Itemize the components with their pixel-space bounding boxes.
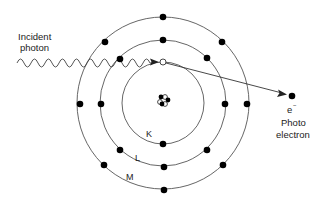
shell-label-l: L — [135, 153, 140, 163]
electron — [160, 141, 167, 148]
electron — [117, 147, 124, 154]
photoelectron — [289, 93, 296, 100]
electron — [160, 37, 167, 44]
electron — [102, 39, 109, 46]
electron — [222, 101, 229, 108]
electron — [98, 101, 105, 108]
electron — [77, 101, 84, 108]
electron — [160, 14, 167, 21]
nucleus — [158, 95, 171, 107]
proton — [166, 98, 171, 103]
incident-photon-wave — [17, 59, 153, 67]
electron — [219, 39, 226, 46]
photoelectron-arrowhead-icon — [277, 90, 287, 98]
k-shell-electrons — [160, 141, 167, 148]
shell-label-k: K — [146, 129, 152, 139]
incident-photon-label-line2: photon — [20, 42, 49, 53]
proton — [159, 95, 164, 100]
electron — [161, 187, 168, 194]
shell-label-m: M — [126, 172, 134, 182]
photoelectron-label-line2: electron — [276, 129, 310, 140]
electron — [220, 162, 227, 169]
electron-symbol-label: e — [287, 104, 292, 115]
electron — [117, 56, 124, 63]
electron — [101, 162, 108, 169]
electron — [204, 147, 211, 154]
electron-charge-label: − — [293, 102, 297, 108]
electron — [204, 55, 211, 62]
electron — [161, 164, 168, 171]
photon-arrowhead-icon — [150, 59, 159, 66]
proton — [160, 102, 165, 107]
photoelectric-effect-diagram: Incident photon K L M e − Photo electron — [0, 0, 320, 201]
photoelectron-label-line1: Photo — [281, 117, 306, 128]
electron — [244, 101, 251, 108]
k-shell-vacancy — [160, 59, 166, 65]
incident-photon-label-line1: Incident — [18, 31, 52, 42]
